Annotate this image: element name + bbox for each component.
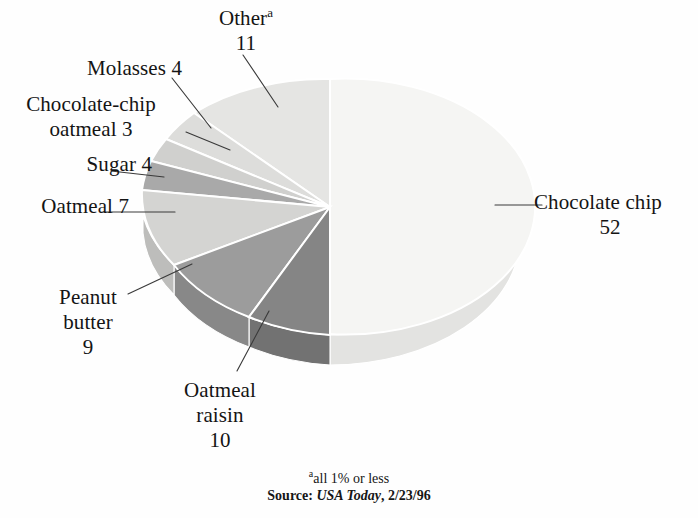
slice-label-oatraisin-line1: Oatmeal bbox=[184, 378, 256, 402]
slice-label-other-value: 11 bbox=[176, 31, 316, 56]
slice-label-peanut-line2: butter bbox=[30, 310, 146, 335]
slice-label-ccoatmeal-line1: Chocolate-chip bbox=[26, 92, 156, 116]
pie-chart-figure: Othera 11 Molasses 4 Chocolate-chip oatm… bbox=[0, 0, 698, 518]
source-prefix: Source: bbox=[267, 488, 316, 503]
slice-label-molasses: Molasses 4 bbox=[22, 56, 182, 81]
slice-label-other-name: Other bbox=[219, 6, 267, 30]
slice-label-chocolate-chip-oatmeal: Chocolate-chip oatmeal 3 bbox=[0, 92, 182, 142]
slice-label-oatmeal-raisin: Oatmeal raisin 10 bbox=[150, 378, 290, 453]
source-date: , 2/23/96 bbox=[381, 488, 431, 503]
slice-label-chocchip-value: 52 bbox=[534, 215, 686, 240]
source-publication: USA Today bbox=[316, 488, 380, 503]
slice-label-sugar-text: Sugar 4 bbox=[87, 152, 152, 176]
slice-label-oatraisin-value: 10 bbox=[150, 428, 290, 453]
slice-label-chocolate-chip: Chocolate chip 52 bbox=[534, 190, 698, 240]
slice-label-peanut-butter: Peanut butter 9 bbox=[30, 285, 146, 360]
slice-label-oatmeal-text: Oatmeal 7 bbox=[41, 194, 129, 218]
footnote-marker-a: a bbox=[267, 5, 273, 20]
slice-label-peanut-value: 9 bbox=[30, 335, 146, 360]
footnote-text: all 1% or less bbox=[313, 471, 389, 486]
slice-label-ccoatmeal-line2: oatmeal 3 bbox=[0, 117, 182, 142]
slice-label-molasses-text: Molasses 4 bbox=[87, 56, 182, 80]
slice-label-sugar: Sugar 4 bbox=[0, 152, 152, 177]
slice-label-oatmeal: Oatmeal 7 bbox=[0, 194, 129, 219]
slice-label-peanut-line1: Peanut bbox=[59, 285, 117, 309]
slice-label-chocchip-name: Chocolate chip bbox=[534, 190, 662, 214]
footnote-all-one-percent: aall 1% or less bbox=[0, 470, 698, 487]
source-line: Source: USA Today, 2/23/96 bbox=[0, 487, 698, 504]
slice-label-other: Othera 11 bbox=[176, 6, 316, 56]
slice-label-oatraisin-line2: raisin bbox=[150, 403, 290, 428]
